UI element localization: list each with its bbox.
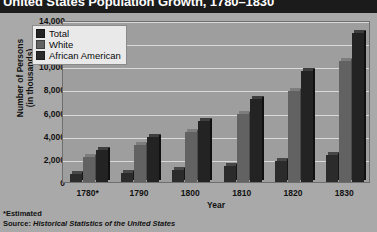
legend-label: White (49, 39, 73, 50)
legend-swatch-icon (36, 51, 45, 60)
y-axis-tick-label: 0 (9, 178, 65, 188)
legend-swatch-icon (36, 40, 45, 49)
chart-legend: TotalWhiteAfrican American (32, 25, 127, 65)
y-axis-tick-label: 8,000 (9, 85, 65, 95)
bar (237, 114, 249, 182)
bar (198, 121, 210, 182)
legend-item: African American (36, 50, 121, 61)
bar (224, 166, 236, 182)
bar (250, 99, 262, 182)
bar (301, 71, 313, 182)
x-axis-tick-label: 1830 (335, 188, 354, 198)
bar (96, 150, 108, 182)
y-axis-tick-label: 4,000 (9, 132, 65, 142)
bar-group (166, 22, 217, 182)
x-axis-tick-label: 1810 (232, 188, 251, 198)
bar-group (268, 22, 319, 182)
legend-item: Total (36, 28, 121, 39)
source-prefix: Source: (3, 219, 33, 228)
chart-title: United States Population Growth, 1780–18… (3, 0, 274, 9)
bar (288, 91, 300, 182)
bar (326, 155, 338, 182)
y-axis-tick-label: 6,000 (9, 109, 65, 119)
bar (275, 161, 287, 182)
chart-figure: United States Population Growth, 1780–18… (0, 0, 377, 232)
legend-label: African American (49, 50, 121, 61)
legend-label: Total (49, 28, 69, 39)
bar (83, 157, 95, 182)
legend-swatch-icon (36, 29, 45, 38)
bar (70, 174, 82, 182)
legend-item: White (36, 39, 121, 50)
bar (185, 132, 197, 182)
chart-canvas: Number of Persons (in thousands) 02,0004… (0, 13, 377, 232)
x-axis-tick-label: 1800 (181, 188, 200, 198)
bar-group (217, 22, 268, 182)
source-note: Source: Historical Statistics of the Uni… (3, 219, 175, 229)
x-axis-tick-label: 1790 (130, 188, 149, 198)
title-bar: United States Population Growth, 1780–18… (0, 0, 377, 13)
y-axis-tick-label: 2,000 (9, 155, 65, 165)
bar-group (320, 22, 371, 182)
bar (339, 61, 351, 183)
source-title: Historical Statistics of the United Stat… (33, 219, 175, 228)
bar (352, 33, 364, 182)
y-axis-title-line1: Number of Persons (15, 39, 25, 117)
bar (134, 145, 146, 182)
bar (172, 170, 184, 182)
estimated-note: *Estimated (3, 209, 175, 219)
footnotes: *Estimated Source: Historical Statistics… (3, 209, 175, 229)
bar (121, 173, 133, 182)
bar (147, 137, 159, 182)
x-axis-tick-label: 1820 (284, 188, 303, 198)
x-axis-tick-label: 1780* (77, 188, 99, 198)
